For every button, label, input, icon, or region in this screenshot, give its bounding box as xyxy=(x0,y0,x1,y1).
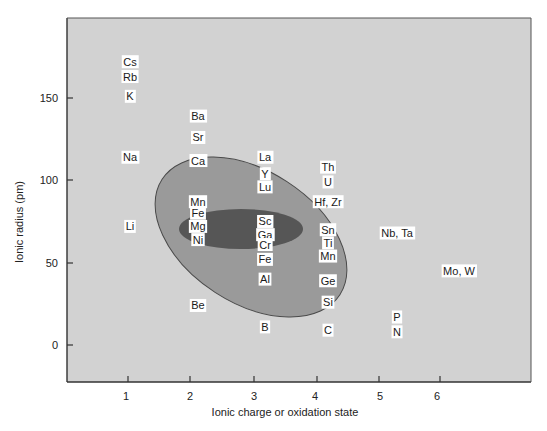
element-label: Ba xyxy=(191,110,205,122)
element-label: Ni xyxy=(193,234,203,246)
element-label: Be xyxy=(191,299,204,311)
x-tick-2: 2 xyxy=(187,390,193,402)
element-label: C xyxy=(324,324,332,336)
x-tick-4: 4 xyxy=(312,390,318,402)
element-label: Cr xyxy=(259,239,271,251)
element-label: Li xyxy=(126,220,135,232)
y-tick-0: 0 xyxy=(52,339,58,351)
x-tick-6: 6 xyxy=(434,390,440,402)
x-tick-5: 5 xyxy=(377,390,383,402)
ionic-radius-chart: 150 100 50 0 1 2 3 4 5 6 Ionic charge or… xyxy=(0,0,547,431)
element-label: La xyxy=(259,151,272,163)
x-axis-title: Ionic charge or oxidation state xyxy=(212,406,359,418)
element-label: Al xyxy=(260,273,270,285)
element-label: P xyxy=(393,311,400,323)
element-label: Cs xyxy=(123,56,137,68)
y-axis-title: Ionic radius (pm) xyxy=(13,181,25,263)
element-label: Ti xyxy=(324,237,333,249)
element-label: Fe xyxy=(259,253,272,265)
element-label: Lu xyxy=(259,181,271,193)
element-label: B xyxy=(261,321,268,333)
element-label: Ca xyxy=(191,155,206,167)
element-label: Sc xyxy=(259,215,272,227)
element-label: Nb, Ta xyxy=(381,227,413,239)
element-label: Th xyxy=(322,161,335,173)
element-label: Ge xyxy=(321,275,336,287)
element-label: Mo, W xyxy=(443,265,475,277)
element-label: Na xyxy=(123,151,138,163)
element-label: U xyxy=(324,176,332,188)
x-tick-3: 3 xyxy=(251,390,257,402)
element-label: Sr xyxy=(193,131,204,143)
y-tick-150: 150 xyxy=(40,92,58,104)
element-label: N xyxy=(393,326,401,338)
element-label: Mn xyxy=(190,196,205,208)
element-label: Mn xyxy=(320,250,335,262)
element-label: Hf, Zr xyxy=(314,196,342,208)
element-label: Rb xyxy=(123,71,137,83)
y-tick-100: 100 xyxy=(40,174,58,186)
element-label: Y xyxy=(261,168,269,180)
element-label: K xyxy=(126,90,134,102)
x-tick-1: 1 xyxy=(123,390,129,402)
element-label: Mg xyxy=(190,220,205,232)
element-label: Si xyxy=(323,296,333,308)
y-tick-50: 50 xyxy=(46,257,58,269)
element-label: Fe xyxy=(192,207,205,219)
element-label: Sn xyxy=(321,224,334,236)
